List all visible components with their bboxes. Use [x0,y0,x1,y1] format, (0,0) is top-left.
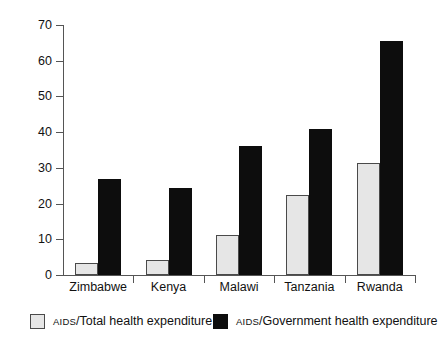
y-tick-10 [56,239,63,240]
y-tick-label-70: 70 [6,19,52,32]
bar-kenya-government [169,188,192,275]
legend-item-government: AIDS/Government health expenditure [213,314,438,329]
bar-malawi-government [239,146,262,275]
legend-item-total: AIDS/Total health expenditure [30,314,212,329]
bar-tanzania-total [286,195,309,275]
x-axis-line [63,275,416,276]
legend-label-total-prefix: AIDS [53,316,76,327]
y-tick-50 [56,96,63,97]
y-tick-30 [56,168,63,169]
legend-label-total: AIDS/Total health expenditure [53,314,212,329]
bar-rwanda-government [380,41,403,275]
y-tick-label-60: 60 [6,55,52,68]
category-label-rwanda: Rwanda [330,280,430,294]
legend-label-total-rest: /Total health expenditure [76,314,212,328]
bar-zimbabwe-government [98,179,121,275]
y-tick-label-50: 50 [6,90,52,103]
y-tick-70 [56,25,63,26]
legend-label-government-rest: /Government health expenditure [259,314,438,328]
bar-kenya-total [146,260,169,275]
legend-swatch-dark-icon [213,314,228,329]
bar-tanzania-government [309,129,332,275]
legend-swatch-light-icon [30,314,45,329]
legend-label-government-prefix: AIDS [236,316,259,327]
bar-malawi-total [216,235,239,275]
legend-label-government: AIDS/Government health expenditure [236,314,438,329]
y-tick-60 [56,61,63,62]
bar-zimbabwe-total [75,263,98,275]
bar-rwanda-total [357,163,380,276]
y-tick-label-40: 40 [6,126,52,139]
y-tick-label-0: 0 [6,269,52,282]
y-tick-40 [56,132,63,133]
y-tick-label-10: 10 [6,233,52,246]
y-tick-label-20: 20 [6,198,52,211]
y-tick-0 [56,275,63,276]
y-tick-20 [56,204,63,205]
plot-area [63,25,415,275]
y-tick-label-30: 30 [6,162,52,175]
